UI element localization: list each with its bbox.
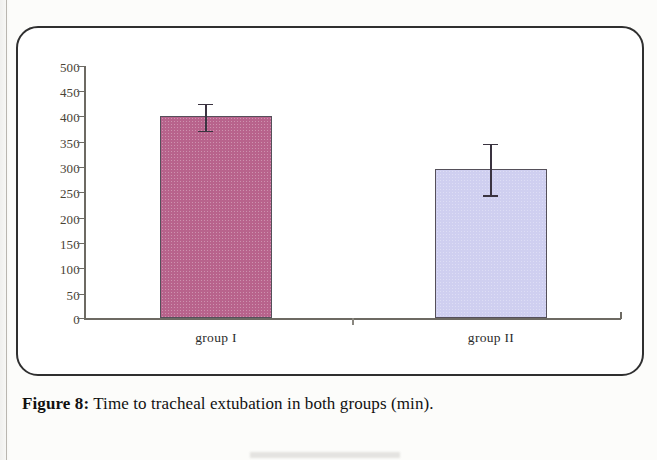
y-tick-label-50: 50	[40, 289, 80, 302]
y-tick-mark-450	[77, 91, 85, 92]
y-tick-label-300: 300	[40, 162, 80, 175]
bar-group-i	[160, 116, 272, 318]
figure-caption: Figure 8: Time to tracheal extubation in…	[22, 394, 632, 414]
error-bar-cap-bottom-group-ii	[483, 195, 498, 197]
y-tick-mark-400	[77, 116, 85, 117]
y-tick-mark-50	[77, 294, 85, 295]
y-tick-mark-100	[77, 268, 85, 269]
y-tick-mark-300	[77, 167, 85, 168]
figure-caption-text: Time to tracheal extubation in both grou…	[89, 394, 434, 413]
y-tick-label-450: 450	[40, 86, 80, 99]
scanned-page: 500 450 400 350 300 250 200 150 100 50 0	[0, 0, 657, 460]
error-bar-stem-group-ii	[490, 144, 492, 195]
x-axis-mid-tick	[352, 318, 354, 325]
error-bar-cap-bottom-group-i	[198, 131, 213, 133]
scan-artifact	[250, 452, 400, 458]
y-tick-label-150: 150	[40, 238, 80, 251]
y-tick-mark-350	[77, 142, 85, 143]
x-axis-end-tick	[620, 312, 622, 319]
bar-chart: 500 450 400 350 300 250 200 150 100 50 0	[0, 0, 657, 460]
y-tick-label-250: 250	[40, 187, 80, 200]
y-tick-mark-150	[77, 243, 85, 244]
error-bar-cap-top-group-ii	[483, 144, 498, 146]
error-bar-cap-top-group-i	[198, 104, 213, 106]
y-tick-mark-0	[77, 318, 85, 319]
y-tick-label-400: 400	[40, 111, 80, 124]
y-tick-mark-500	[77, 66, 85, 67]
y-tick-label-200: 200	[40, 213, 80, 226]
y-tick-label-350: 350	[40, 137, 80, 150]
x-axis-label-group-i: group I	[156, 330, 276, 346]
y-tick-label-0: 0	[40, 313, 80, 326]
y-tick-mark-250	[77, 192, 85, 193]
x-axis-label-group-ii: group II	[431, 330, 551, 346]
y-tick-label-100: 100	[40, 263, 80, 276]
y-tick-mark-200	[77, 218, 85, 219]
y-tick-label-500: 500	[40, 61, 80, 74]
figure-number: Figure 8:	[22, 394, 89, 413]
error-bar-stem-group-i	[205, 104, 207, 131]
